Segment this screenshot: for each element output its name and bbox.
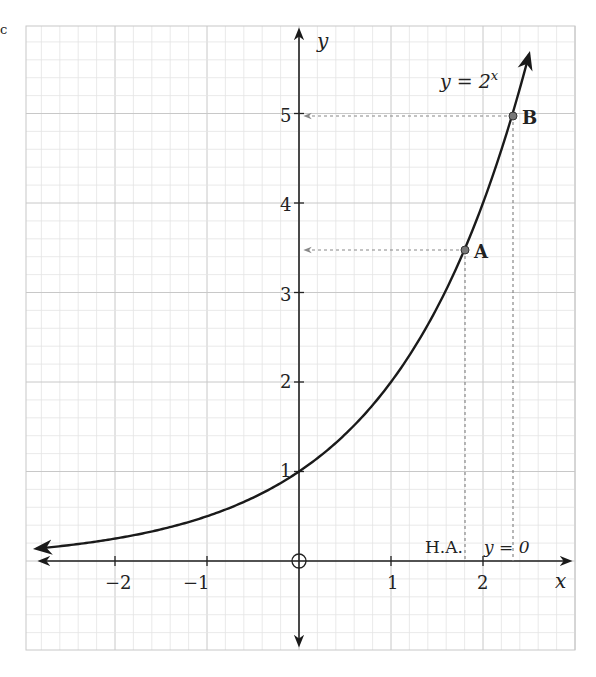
x-tick-label-1: 1	[387, 572, 398, 593]
function-label: y = 2x	[439, 68, 499, 92]
y-tick-label-3: 3	[280, 284, 291, 305]
asymptote-equation: y = 0	[483, 537, 530, 557]
point-a	[461, 246, 469, 254]
y-tick-label-5: 5	[280, 105, 291, 126]
x-tick-label-2: 2	[477, 572, 488, 593]
y-tick-label-1: 1	[280, 460, 291, 481]
x-tick-label-minus1: −1	[183, 572, 210, 593]
x-tick-label-minus2: −2	[105, 572, 132, 593]
y-axis-label: y	[316, 29, 329, 53]
point-b-label: B	[522, 107, 537, 128]
y-tick-label-2: 2	[280, 371, 291, 392]
x-axis-label: x	[555, 569, 566, 593]
point-a-label: A	[473, 241, 489, 262]
point-b	[509, 112, 517, 120]
asymptote-label: H.A.	[425, 537, 463, 557]
y-tick-label-4: 4	[280, 194, 291, 215]
chart-canvas: y x y = 2x A B H.A. y = 0 −2 −1 1 2 1 2 …	[0, 0, 596, 677]
